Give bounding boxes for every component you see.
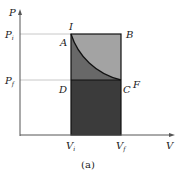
y-tick-pf: Pf (4, 75, 16, 88)
region-lower-dark (71, 80, 121, 135)
point-label-i: I (68, 21, 74, 32)
point-label-d: D (58, 84, 67, 95)
x-axis-label: V (166, 140, 175, 151)
point-label-a: A (59, 37, 67, 48)
y-axis-label: P (8, 7, 16, 18)
point-label-c: C (123, 84, 131, 95)
figure-caption: (a) (81, 159, 95, 170)
point-label-f: F (132, 79, 141, 90)
point-label-b: B (125, 29, 133, 40)
pv-diagram: P V Pi Pf Vi Vf I A B D C F (a) (0, 0, 181, 174)
y-axis-arrow-icon (18, 9, 22, 15)
x-tick-vf: Vf (116, 140, 127, 153)
x-axis-arrow-icon (169, 133, 175, 137)
y-tick-pi: Pi (4, 29, 14, 41)
x-tick-vi: Vi (66, 140, 75, 152)
